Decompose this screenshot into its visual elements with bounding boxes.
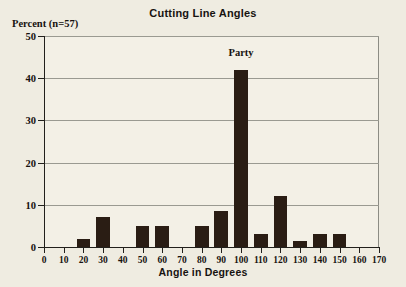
- x-axis-tick: [123, 247, 124, 253]
- x-axis-tick: [44, 247, 45, 253]
- y-axis-tick-label: 10: [8, 199, 36, 210]
- x-axis-tick: [261, 247, 262, 253]
- bar-series: [44, 36, 380, 247]
- bar: [96, 217, 110, 247]
- bar: [195, 226, 209, 247]
- x-axis-tick: [64, 247, 65, 253]
- x-axis-tick: [359, 247, 360, 253]
- bar: [333, 234, 347, 247]
- y-axis-tick-label: 30: [8, 115, 36, 126]
- x-axis-tick: [202, 247, 203, 253]
- bar: [214, 211, 228, 247]
- x-axis-line: [44, 247, 380, 248]
- x-axis-tick: [221, 247, 222, 253]
- x-axis-tick: [340, 247, 341, 253]
- y-axis-tick-label: 40: [8, 73, 36, 84]
- bar: [234, 70, 248, 247]
- bar: [136, 226, 150, 247]
- x-axis-tick: [320, 247, 321, 253]
- x-axis-tick: [103, 247, 104, 253]
- x-axis-label: Angle in Degrees: [0, 266, 406, 278]
- x-axis-tick-label: 170: [366, 255, 392, 265]
- bar: [313, 234, 327, 247]
- x-axis-tick: [300, 247, 301, 253]
- bar: [254, 234, 268, 247]
- y-axis-tick-label: 0: [8, 242, 36, 253]
- x-axis-tick: [182, 247, 183, 253]
- bar: [77, 239, 91, 247]
- x-axis-tick: [241, 247, 242, 253]
- chart-figure: Cutting Line Angles Percent (n=57) 01020…: [0, 0, 406, 287]
- y-axis-tick-labels: 01020304050: [4, 0, 36, 287]
- bar: [293, 241, 307, 247]
- y-axis-tick-label: 20: [8, 157, 36, 168]
- bar: [155, 226, 169, 247]
- bar: [274, 196, 288, 247]
- x-axis-tick: [143, 247, 144, 253]
- y-axis-tick-label: 50: [8, 31, 36, 42]
- x-axis-tick: [162, 247, 163, 253]
- x-axis-tick: [280, 247, 281, 253]
- x-axis-tick: [83, 247, 84, 253]
- annotation-label: Party: [229, 47, 254, 58]
- x-axis-tick: [379, 247, 380, 253]
